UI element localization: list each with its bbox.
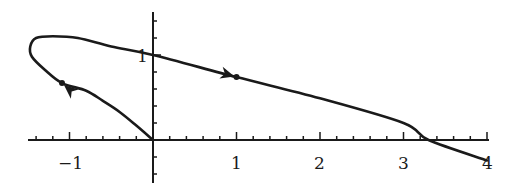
x-tick-label-2: 2	[314, 155, 325, 172]
y-ticks	[153, 21, 161, 174]
trajectory-curve	[30, 36, 487, 160]
marker-dot	[234, 74, 240, 80]
y-tick-label-1: 1	[137, 48, 148, 65]
x-tick-label-neg1: −1	[58, 155, 83, 172]
x-tick-label-1: 1	[231, 155, 242, 172]
x-tick-label-3: 3	[398, 155, 409, 172]
x-tick-label-4: 4	[482, 155, 493, 172]
